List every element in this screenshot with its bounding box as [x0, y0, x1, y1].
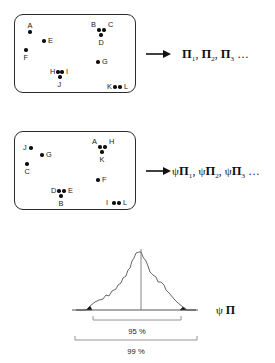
- data-point: [96, 178, 99, 181]
- data-point-label: J: [58, 81, 62, 88]
- confidence-label-99: 99 %: [124, 347, 148, 356]
- data-point: [57, 189, 60, 192]
- data-point-label: F: [102, 176, 107, 183]
- data-point: [103, 145, 106, 148]
- data-point: [112, 201, 115, 204]
- data-point: [29, 146, 32, 149]
- data-point: [96, 60, 99, 63]
- data-point-label: J: [23, 144, 27, 151]
- data-point-label: B: [91, 21, 96, 28]
- data-point: [24, 48, 27, 51]
- arrow-icon-2: [146, 165, 172, 177]
- data-point-label: F: [24, 54, 29, 61]
- data-point: [100, 150, 103, 153]
- data-point: [58, 75, 61, 78]
- data-point-label: A: [28, 22, 33, 29]
- data-point-label: B: [59, 200, 64, 207]
- data-point-label: H: [109, 138, 114, 145]
- confidence-label-95: 95 %: [125, 327, 149, 336]
- figure-canvas: AEFBCDGHIJKL Π1, Π2, Π3 … JGCAHKFDEBIL ψ…: [0, 0, 275, 363]
- data-point-label: D: [99, 39, 104, 46]
- data-point: [40, 153, 43, 156]
- data-point: [60, 70, 63, 73]
- data-point: [59, 194, 62, 197]
- data-point: [102, 28, 105, 31]
- data-point-label: L: [124, 83, 128, 90]
- data-point-label: E: [68, 187, 73, 194]
- confidence-bracket-95: [93, 316, 181, 320]
- data-point: [56, 70, 59, 73]
- data-point: [98, 145, 101, 148]
- statistic-formula-1: Π1, Π2, Π3 …: [182, 47, 249, 63]
- data-point-label: K: [107, 83, 112, 90]
- data-point: [25, 162, 28, 165]
- confidence-bracket-99: [75, 336, 197, 340]
- resample-box-2: [14, 131, 136, 210]
- data-point: [28, 30, 31, 33]
- data-point: [117, 201, 120, 204]
- data-point-label: I: [66, 68, 68, 75]
- data-point: [62, 189, 65, 192]
- data-point-label: L: [123, 199, 127, 206]
- data-point: [99, 33, 102, 36]
- data-point-label: G: [46, 151, 52, 158]
- data-point-label: A: [92, 138, 97, 145]
- statistic-formula-2: ψΠ1, ψΠ2, ψΠ3 …: [172, 164, 260, 180]
- data-point-label: C: [108, 21, 113, 28]
- data-point-label: G: [102, 58, 108, 65]
- arrow-icon-1: [146, 48, 172, 60]
- data-point: [97, 28, 100, 31]
- distribution-axis-label: ψ Π: [216, 303, 235, 318]
- data-point-label: H: [50, 68, 55, 75]
- data-point-label: E: [48, 37, 53, 44]
- data-point: [42, 39, 45, 42]
- data-point-label: C: [25, 168, 30, 175]
- data-point: [113, 85, 116, 88]
- data-point-label: I: [106, 199, 108, 206]
- data-point-label: K: [100, 156, 105, 163]
- data-point: [118, 85, 121, 88]
- data-point-label: D: [51, 187, 56, 194]
- density-curve: [86, 252, 187, 310]
